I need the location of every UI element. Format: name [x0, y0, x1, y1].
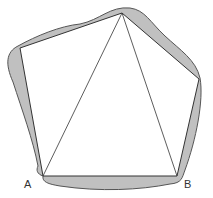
geometry-diagram: A B: [0, 0, 213, 198]
label-b: B: [184, 178, 191, 190]
label-a: A: [24, 178, 32, 190]
